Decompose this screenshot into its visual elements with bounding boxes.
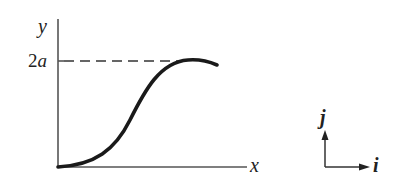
i-label: i — [373, 154, 379, 176]
x-axis-label: x — [249, 154, 259, 176]
diagram-canvas: y 2a x j i — [0, 0, 399, 180]
y-tick-label: 2a — [28, 50, 47, 71]
j-label: j — [317, 106, 326, 129]
j-arrowhead-icon — [322, 130, 329, 140]
s-curve — [58, 60, 217, 167]
y-axis-label: y — [36, 15, 47, 38]
unit-vector-diagram: j i — [317, 106, 379, 176]
i-arrowhead-icon — [359, 164, 370, 171]
